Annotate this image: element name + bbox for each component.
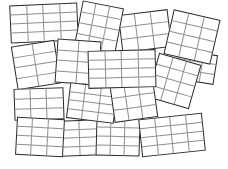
grid-cell (195, 49, 212, 63)
grid-cell (67, 109, 83, 119)
grid-cell (47, 98, 63, 109)
grid-cell (14, 89, 30, 100)
grid-cell (142, 146, 158, 157)
grid-cell (122, 51, 139, 60)
grid-cell (82, 111, 98, 121)
grid-cell (31, 99, 47, 110)
grid-cell (89, 69, 106, 78)
grid-cell (142, 105, 157, 118)
grid-cell (97, 136, 111, 145)
grid-card[interactable] (59, 119, 100, 156)
grid-card[interactable] (88, 49, 157, 89)
grid-cell (125, 146, 139, 155)
grid-cell (139, 77, 156, 86)
grid-cell (128, 107, 143, 120)
card-pile-scene (0, 0, 228, 169)
grid-cell (47, 146, 63, 156)
grid-cell (175, 94, 191, 108)
grid-cell (97, 127, 111, 136)
grid-cell (125, 137, 139, 146)
grid-cell (106, 69, 123, 78)
grid-cell (111, 137, 125, 146)
grid-cell (111, 146, 125, 155)
grid-cell (111, 128, 125, 137)
grid-cell (114, 109, 129, 122)
grid-cell (138, 59, 155, 68)
grid-cell (15, 99, 31, 110)
grid-cell (89, 78, 106, 87)
grid-cell (122, 69, 139, 78)
grid-cell (30, 89, 46, 100)
grid-cell (97, 145, 111, 154)
grid-card[interactable] (13, 87, 64, 121)
grid-cell (47, 108, 63, 119)
grid-card[interactable] (15, 117, 65, 157)
grid-cell (158, 144, 174, 155)
grid-cell (28, 32, 45, 42)
grid-cell (31, 146, 47, 156)
grid-card[interactable] (9, 3, 79, 44)
grid-cell (122, 78, 139, 87)
grid-cell (16, 145, 32, 155)
grid-cell (125, 128, 139, 137)
grid-cell (11, 33, 28, 43)
grid-cell (98, 112, 114, 122)
grid-cell (89, 51, 106, 60)
grid-cell (105, 60, 122, 69)
grid-card[interactable] (96, 117, 141, 156)
grid-cell (138, 68, 155, 77)
grid-cell (105, 51, 122, 60)
grid-cell (56, 71, 78, 83)
grid-cell (173, 142, 189, 153)
grid-cell (200, 73, 214, 84)
grid-cell (138, 50, 155, 59)
grid-cell (17, 75, 39, 89)
grid-cell (138, 36, 155, 50)
grid-cell (188, 141, 204, 152)
grid-cell (122, 60, 139, 69)
grid-cell (61, 146, 80, 155)
grid-cell (46, 88, 62, 99)
grid-card[interactable] (11, 40, 61, 90)
grid-cell (89, 60, 106, 69)
grid-cell (106, 78, 123, 87)
grid-card[interactable] (138, 113, 206, 157)
